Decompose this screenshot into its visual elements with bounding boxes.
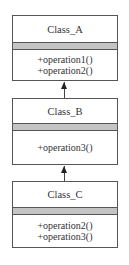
arrow-head-icon	[61, 166, 67, 173]
class-name: Class_C	[13, 182, 117, 208]
operation-item: +operation2()	[37, 220, 92, 231]
operations-compartment: +operation1() +operation2()	[13, 50, 117, 80]
attributes-compartment	[13, 43, 117, 50]
operation-item: +operation3()	[37, 231, 92, 242]
arrow-head-icon	[61, 82, 67, 89]
attributes-compartment	[13, 208, 117, 215]
class-box-class-b: Class_B +operation3()	[12, 98, 118, 165]
class-name: Class_A	[13, 16, 117, 43]
operation-item: +operation3()	[37, 142, 92, 153]
attributes-compartment	[13, 124, 117, 131]
inheritance-arrow-c-to-b	[64, 166, 65, 181]
class-box-class-a: Class_A +operation1() +operation2()	[12, 15, 118, 81]
inheritance-arrow-b-to-a	[64, 82, 65, 98]
operations-compartment: +operation3()	[13, 131, 117, 164]
class-box-class-c: Class_C +operation2() +operation3()	[12, 181, 118, 248]
operation-item: +operation2()	[37, 65, 92, 76]
class-name: Class_B	[13, 99, 117, 124]
operations-compartment: +operation2() +operation3()	[13, 215, 117, 247]
operation-item: +operation1()	[37, 54, 92, 65]
